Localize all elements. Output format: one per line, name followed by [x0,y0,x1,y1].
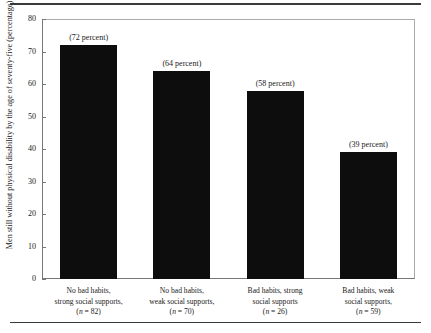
x-axis-label-line: (n = 70) [135,307,228,318]
sample-size-symbol: n [359,307,363,316]
bar [153,71,210,279]
y-axis-tick-label: 70 [4,47,36,57]
bar-value-label: (64 percent) [137,59,227,69]
y-axis-tick-mark [42,214,46,215]
y-axis-tick-mark [42,247,46,248]
y-axis-tick-mark [42,19,46,20]
y-axis-tick-mark [42,52,46,53]
x-axis-label-line: No bad habits, [42,286,135,297]
y-axis-tick-mark [42,149,46,150]
x-axis-label-line: No bad habits, [135,286,228,297]
y-axis-tick-mark [42,84,46,85]
y-axis-tick-label: 60 [4,79,36,89]
y-axis-tick-label: 30 [4,177,36,187]
x-axis-category-label: Bad habits, strongsocial supports(n = 26… [229,286,322,318]
top-divider-rule [10,3,421,5]
y-axis-tick-label: 10 [4,242,36,252]
x-axis-label-line: weak social supports, [135,297,228,308]
x-axis-label-line: social supports, [322,297,415,308]
sample-size-symbol: n [172,307,176,316]
x-axis-label-line: strong social supports, [42,297,135,308]
bar-value-label: (58 percent) [230,79,320,89]
y-axis-tick-label: 0 [4,274,36,284]
x-axis-label-line: (n = 59) [322,307,415,318]
y-axis-tick-label: 20 [4,209,36,219]
x-axis-label-line: Bad habits, strong [229,286,322,297]
x-axis-label-line: (n = 26) [229,307,322,318]
y-axis-tick-mark [42,279,46,280]
bar [340,152,397,279]
bottom-divider-rule [10,322,421,323]
x-axis-category-label: No bad habits,weak social supports,(n = … [135,286,228,318]
x-axis-label-line: (n = 82) [42,307,135,318]
sample-size-symbol: n [265,307,269,316]
y-axis-title: Men still without physical disability by… [5,0,15,280]
sample-size-symbol: n [79,307,83,316]
y-axis-tick-label: 40 [4,144,36,154]
x-axis-category-label: No bad habits,strong social supports,(n … [42,286,135,318]
bar-value-label: (72 percent) [44,33,134,43]
y-axis-tick-label: 80 [4,14,36,24]
x-axis-category-label: Bad habits, weaksocial supports,(n = 59) [322,286,415,318]
bar [60,45,117,279]
y-axis-tick-mark [42,117,46,118]
y-axis-tick-label: 50 [4,112,36,122]
bar-value-label: (39 percent) [323,140,413,150]
x-axis-label-line: social supports [229,297,322,308]
x-axis-label-line: Bad habits, weak [322,286,415,297]
bar [247,91,304,280]
y-axis-tick-mark [42,182,46,183]
